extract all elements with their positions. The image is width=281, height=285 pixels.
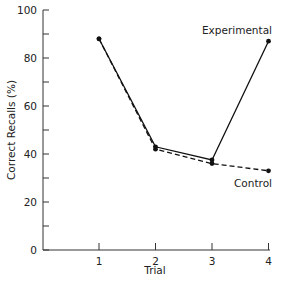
x-axis-label: Trial	[143, 264, 165, 276]
series-label-experimental: Experimental	[202, 24, 272, 36]
y-axis-label: Correct Recalls (%)	[5, 80, 17, 180]
y-axis: 020406080100	[17, 4, 49, 256]
y-tick-label: 100	[17, 4, 37, 16]
y-tick-label: 80	[24, 52, 37, 64]
series-label-control: Control	[234, 177, 272, 189]
y-tick-label: 60	[24, 100, 37, 112]
data-point	[97, 36, 102, 41]
series-line-control	[99, 39, 269, 171]
x-tick-label: 1	[96, 255, 103, 267]
y-tick-label: 0	[30, 244, 37, 256]
data-point	[153, 147, 158, 152]
x-tick-label: 3	[209, 255, 216, 267]
x-tick-label: 4	[265, 255, 272, 267]
y-tick-label: 40	[24, 148, 37, 160]
data-point	[210, 161, 215, 166]
y-tick-label: 20	[24, 196, 37, 208]
data-point	[266, 39, 271, 44]
series-line-experimental	[99, 39, 269, 160]
line-chart: 020406080100 1234 Correct Recalls (%) Tr…	[0, 0, 281, 285]
series-layer	[97, 36, 271, 173]
data-point	[266, 168, 271, 173]
